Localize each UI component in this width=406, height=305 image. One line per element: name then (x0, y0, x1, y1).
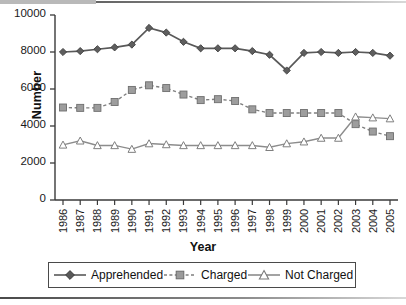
data-point (60, 104, 67, 111)
x-tick-2004: 2004 (367, 209, 379, 233)
data-point (197, 97, 204, 104)
data-point (283, 110, 290, 117)
legend-item-charged[interactable]: Charged (163, 268, 247, 282)
x-tick-1992: 1992 (160, 209, 172, 233)
x-tick-2000: 2000 (298, 209, 310, 233)
y-tick-6000: 6000 (0, 81, 46, 93)
data-point (77, 104, 84, 111)
data-point (249, 106, 256, 113)
data-point (369, 128, 376, 135)
data-point (180, 91, 187, 98)
legend-marker-square-icon (163, 268, 197, 282)
data-point (387, 133, 394, 140)
x-tick-1998: 1998 (264, 209, 276, 233)
chart-legend: Apprehended Charged Not Charged (48, 262, 356, 288)
x-tick-1996: 1996 (229, 209, 241, 233)
x-tick-2005: 2005 (384, 209, 396, 233)
data-point (128, 86, 135, 93)
x-axis-title: Year (0, 240, 406, 254)
data-point (214, 96, 221, 103)
x-tick-2003: 2003 (350, 209, 362, 233)
data-point (232, 98, 239, 105)
data-point (59, 48, 66, 55)
chart-figure: Number Year 0200040006000800010000 19861… (0, 0, 406, 305)
legend-label-apprehended: Apprehended (91, 268, 163, 282)
y-tick-2000: 2000 (0, 155, 46, 167)
x-tick-1993: 1993 (177, 209, 189, 233)
x-tick-1990: 1990 (126, 209, 138, 233)
legend-marker-triangle-icon (247, 268, 281, 282)
x-tick-1986: 1986 (57, 209, 69, 233)
data-point (266, 110, 273, 117)
y-tick-8000: 8000 (0, 44, 46, 56)
data-point (77, 47, 84, 54)
data-point (76, 137, 84, 144)
x-tick-1999: 1999 (281, 209, 293, 233)
series-line-not-charged (63, 117, 390, 149)
x-tick-1989: 1989 (109, 209, 121, 233)
x-tick-2002: 2002 (332, 209, 344, 233)
legend-item-not-charged[interactable]: Not Charged (247, 268, 353, 282)
data-point (163, 29, 170, 36)
y-tick-4000: 4000 (0, 118, 46, 130)
x-tick-2001: 2001 (315, 209, 327, 233)
data-point (197, 45, 204, 52)
x-tick-1988: 1988 (91, 209, 103, 233)
data-point (335, 110, 342, 117)
data-point (352, 121, 359, 128)
legend-label-charged: Charged (201, 268, 247, 282)
legend-item-apprehended[interactable]: Apprehended (53, 268, 163, 282)
y-tick-10000: 10000 (0, 7, 46, 19)
legend-label-not-charged: Not Charged (285, 268, 353, 282)
data-point (163, 85, 170, 92)
x-tick-1987: 1987 (74, 209, 86, 233)
data-point (369, 49, 376, 56)
data-point (111, 98, 118, 105)
data-point (249, 47, 256, 54)
x-tick-1994: 1994 (195, 209, 207, 233)
data-point (386, 52, 393, 59)
data-point (352, 48, 359, 55)
x-tick-1997: 1997 (246, 209, 258, 233)
x-tick-1991: 1991 (143, 209, 155, 233)
data-point (318, 110, 325, 117)
data-point (300, 110, 307, 117)
data-point (146, 82, 153, 89)
data-point (232, 45, 239, 52)
legend-marker-diamond-icon (53, 268, 87, 282)
data-point (180, 38, 187, 45)
y-tick-0: 0 (0, 192, 46, 204)
data-point (214, 45, 221, 52)
bottom-divider (0, 297, 406, 299)
data-point (335, 49, 342, 56)
data-point (94, 46, 101, 53)
data-point (318, 48, 325, 55)
series-line-apprehended (63, 28, 390, 71)
data-point (94, 104, 101, 111)
x-tick-1995: 1995 (212, 209, 224, 233)
data-point (111, 44, 118, 51)
